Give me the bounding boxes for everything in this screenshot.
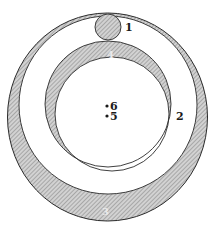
label-2: 2: [176, 110, 184, 123]
point-6: [105, 104, 108, 107]
label-6: 6: [110, 100, 118, 113]
label-1: 1: [125, 21, 133, 34]
point-5: [105, 114, 108, 117]
small-circle: [95, 14, 121, 40]
label-4: 4: [107, 49, 114, 60]
label-3: 3: [102, 206, 109, 217]
eccentric-circles-diagram: 1 2 3 4 5 6: [0, 0, 215, 231]
